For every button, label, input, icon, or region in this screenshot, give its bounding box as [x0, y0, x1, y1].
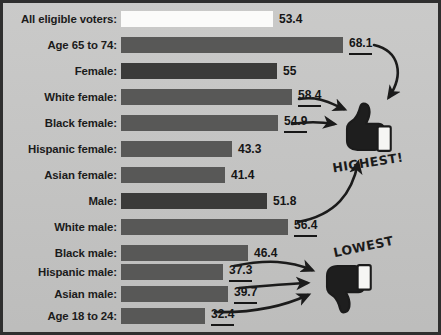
- bar-track: [121, 115, 278, 131]
- thumbs-up-icon: [340, 100, 396, 158]
- bar-label: Black female:: [0, 113, 117, 133]
- bar-fill: [121, 264, 223, 280]
- bar-fill: [121, 141, 232, 157]
- bar-track: [121, 245, 248, 261]
- bar-track: [121, 11, 273, 27]
- bar-fill: [121, 219, 288, 235]
- bar-row: White male:56.4: [0, 217, 441, 237]
- bar-label: Hispanic female:: [0, 139, 117, 159]
- bar-fill: [121, 11, 273, 27]
- bar-label: Female:: [0, 61, 117, 81]
- bar-track: [121, 264, 223, 280]
- bar-label: Black male:: [0, 243, 117, 263]
- bar-value: 53.4: [279, 9, 302, 29]
- bar-fill: [121, 115, 278, 131]
- bar-fill: [121, 167, 225, 183]
- bar-value: 54.9: [284, 113, 307, 133]
- voter-turnout-infographic: All eligible voters:53.4Age 65 to 74:68.…: [0, 0, 441, 335]
- bar-label: All eligible voters:: [0, 9, 117, 29]
- bar-track: [121, 308, 205, 324]
- bar-value: 39.7: [234, 284, 257, 304]
- thumbs-down-icon: [320, 258, 376, 316]
- bar-value: 41.4: [231, 165, 254, 185]
- bar-track: [121, 141, 232, 157]
- bar-value: 68.1: [349, 35, 372, 55]
- bar-fill: [121, 63, 277, 79]
- bar-fill: [121, 308, 205, 324]
- bar-value: 51.8: [273, 191, 296, 211]
- bar-fill: [121, 89, 292, 105]
- bar-row: All eligible voters:53.4: [0, 9, 441, 29]
- bar-value: 56.4: [294, 217, 317, 237]
- bar-track: [121, 167, 225, 183]
- bar-label: Asian male:: [0, 284, 117, 304]
- bar-row: Male:51.8: [0, 191, 441, 211]
- bar-label: Age 18 to 24:: [0, 306, 117, 326]
- bar-label: Age 65 to 74:: [0, 35, 117, 55]
- bar-fill: [121, 193, 267, 209]
- bar-label: Asian female:: [0, 165, 117, 185]
- bar-label: White male:: [0, 217, 117, 237]
- bar-fill: [121, 286, 228, 302]
- bar-track: [121, 193, 267, 209]
- bar-fill: [121, 37, 343, 53]
- bar-value: 43.3: [238, 139, 261, 159]
- bar-track: [121, 63, 277, 79]
- bar-label: Hispanic male:: [0, 262, 117, 282]
- bar-value: 46.4: [254, 243, 277, 263]
- bar-label: White female:: [0, 87, 117, 107]
- bar-row: Female:55: [0, 61, 441, 81]
- bar-track: [121, 37, 343, 53]
- bar-value: 58.4: [298, 87, 321, 107]
- bar-track: [121, 89, 292, 105]
- bar-value: 55: [283, 61, 296, 81]
- bar-track: [121, 286, 228, 302]
- bar-track: [121, 219, 288, 235]
- bar-value: 32.4: [211, 306, 234, 326]
- bar-row: Age 65 to 74:68.1: [0, 35, 441, 55]
- bar-value: 37.3: [229, 262, 252, 282]
- bar-fill: [121, 245, 248, 261]
- bar-label: Male:: [0, 191, 117, 211]
